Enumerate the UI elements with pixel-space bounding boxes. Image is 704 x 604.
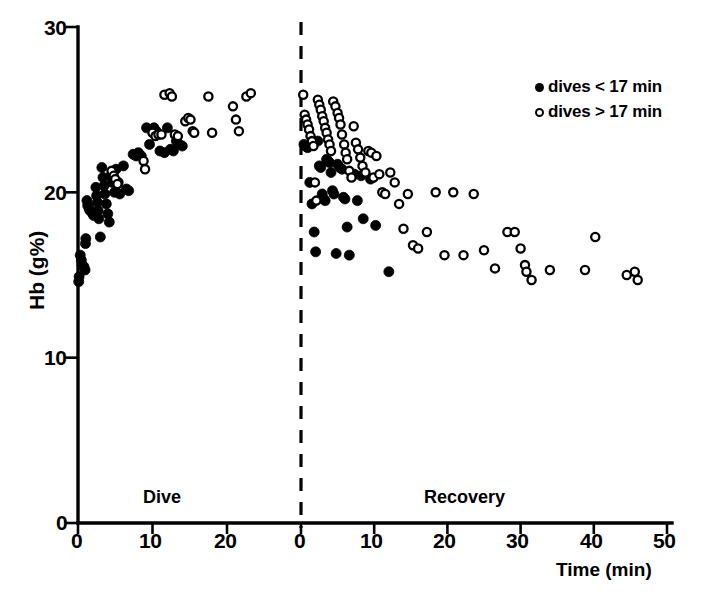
data-point [381,190,389,198]
legend-entry-dives-over-17: dives > 17 min [530,100,700,124]
data-point [449,188,457,196]
dive-phase-label: Dive [143,488,181,506]
legend-entry-dives-under-17: dives < 17 min [530,75,700,99]
data-point [320,196,330,206]
y-tick-label-20: 20 [44,182,66,203]
data-point [342,222,352,232]
data-point [141,165,149,173]
data-point [174,132,182,140]
data-point [229,102,237,110]
x-tick-label-dive-10: 10 [139,530,161,551]
data-point [329,189,339,199]
data-point [352,196,362,206]
data-point [581,266,589,274]
data-point [522,268,530,276]
x-tick-label-rec-10: 10 [360,530,382,551]
data-point [100,189,110,199]
data-point [344,250,354,260]
legend-label-1: dives < 17 min [548,77,662,97]
legend-label-2: dives > 17 min [548,102,662,122]
open-circle-icon [530,108,548,117]
data-point [336,120,344,128]
data-point [358,214,368,224]
data-point [186,115,194,123]
data-point [527,276,535,284]
data-point [517,244,525,252]
x-tick-label-rec-50: 50 [653,530,675,551]
data-point [414,244,422,252]
legend: dives < 17 min dives > 17 min [530,75,700,125]
data-point [190,129,198,137]
data-point [247,89,255,97]
data-point [299,91,307,99]
data-point [384,267,394,277]
data-point [386,168,394,176]
x-tick-label-rec-30: 30 [506,530,528,551]
data-point [546,266,554,274]
y-tick-label-30: 30 [44,17,66,38]
data-point [350,122,358,130]
data-point [80,265,90,275]
data-point [97,163,107,173]
data-point [371,220,381,230]
data-point [591,233,599,241]
data-point [354,145,362,153]
scatter-plot-figure: 30 20 10 0 Hb (g%) 0 10 20 0 10 20 30 40… [0,0,704,604]
data-point [340,194,350,204]
data-point [157,130,165,138]
data-point [634,276,642,284]
data-point [309,227,319,237]
data-point [204,92,212,100]
filled-circle-icon [530,83,548,92]
data-point [309,142,317,150]
x-tick-label-dive-0: 0 [71,530,82,551]
data-point [311,247,321,257]
data-point [104,217,114,227]
data-point [459,251,467,259]
data-point [356,154,364,162]
data-point [139,157,147,165]
data-point [81,234,91,244]
data-point [375,170,383,178]
recovery-phase-label: Recovery [424,488,505,506]
data-point [399,225,407,233]
data-point [208,129,216,137]
x-tick-label-rec-0: 0 [294,530,305,551]
data-point [631,268,639,276]
data-point [124,186,134,196]
data-point [331,249,341,259]
data-point [177,141,187,151]
data-point [327,147,335,155]
data-point [113,180,121,188]
data-point [423,228,431,236]
data-point [326,167,336,177]
data-point [491,264,499,272]
data-point [340,140,348,148]
data-point [404,190,412,198]
data-point [480,246,488,254]
data-point [361,168,369,176]
data-point [311,178,319,186]
data-point [391,178,399,186]
data-point [511,228,519,236]
data-point [470,190,478,198]
data-point [235,127,243,135]
data-point [440,251,448,259]
data-point [118,161,128,171]
y-tick-label-0: 0 [56,512,67,533]
data-point [232,115,240,123]
data-point [432,188,440,196]
data-point [168,92,176,100]
x-tick-label-rec-20: 20 [433,530,455,551]
data-point [372,152,380,160]
data-point [338,130,346,138]
y-tick-label-10: 10 [44,347,66,368]
data-point [343,155,351,163]
data-point [94,214,104,224]
data-point [312,197,320,205]
y-axis-title: Hb (g%) [26,231,47,310]
data-point [101,199,111,209]
data-point [347,173,355,181]
x-tick-label-dive-20: 20 [214,530,236,551]
data-point [145,139,155,149]
